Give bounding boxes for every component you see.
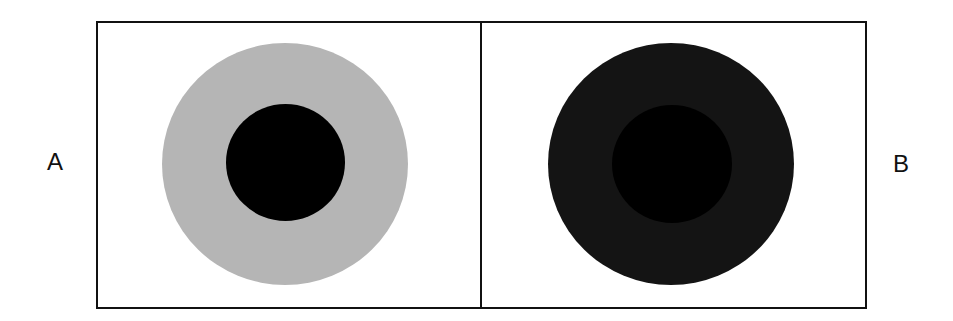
label-a: A [47,150,63,174]
panel-a [96,21,482,309]
diagram-frame [96,21,867,309]
inner-disk-b [612,105,732,223]
panel-b [480,21,867,309]
inner-disk-a [226,104,345,221]
label-b: B [893,152,909,176]
